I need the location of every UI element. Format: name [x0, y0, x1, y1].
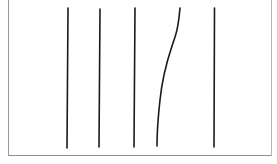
vertical-line-2: [99, 9, 100, 147]
lines-canvas: [0, 0, 277, 164]
vertical-line-5: [214, 8, 215, 147]
vertical-line-1: [67, 8, 68, 148]
vertical-line-3: [134, 8, 135, 147]
curved-line-4: [157, 8, 180, 146]
